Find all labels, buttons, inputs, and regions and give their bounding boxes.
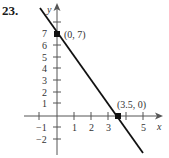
point-x-intercept: [115, 113, 121, 119]
svg-text:2: 2: [89, 122, 94, 133]
point-label-y-intercept: (0, 7): [64, 29, 86, 41]
y-axis-label: y: [46, 4, 52, 15]
svg-text:5: 5: [42, 52, 47, 63]
x-tick-labels: −1 1 2 3 5: [72, 122, 146, 133]
svg-text:4: 4: [42, 63, 47, 74]
svg-text:6: 6: [42, 40, 47, 51]
y-axis: [54, 3, 61, 155]
svg-text:7: 7: [42, 28, 47, 39]
graph: 7 6 5 4 3 2 1 −1 −2 −1 1 2 3 5 y x (0, 7…: [0, 0, 169, 158]
y-tick-labels: 7 6 5 4 3 2 1 −1 −2: [36, 28, 47, 145]
svg-text:−2: −2: [36, 134, 47, 145]
x-axis: [24, 113, 163, 120]
svg-text:3: 3: [106, 122, 111, 133]
svg-text:2: 2: [42, 87, 47, 98]
point-label-x-intercept: (3.5, 0): [117, 99, 146, 111]
point-y-intercept: [54, 31, 60, 37]
svg-text:−1: −1: [36, 122, 47, 133]
svg-text:5: 5: [141, 122, 146, 133]
x-axis-label: x: [156, 121, 162, 132]
svg-text:1: 1: [72, 122, 77, 133]
svg-text:3: 3: [42, 75, 47, 86]
svg-text:1: 1: [42, 98, 47, 109]
